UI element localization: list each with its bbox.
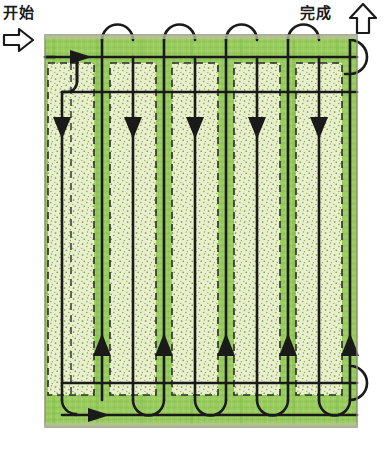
field-diagram: [0, 0, 388, 457]
diagram-canvas: 开始 完成: [0, 0, 388, 457]
